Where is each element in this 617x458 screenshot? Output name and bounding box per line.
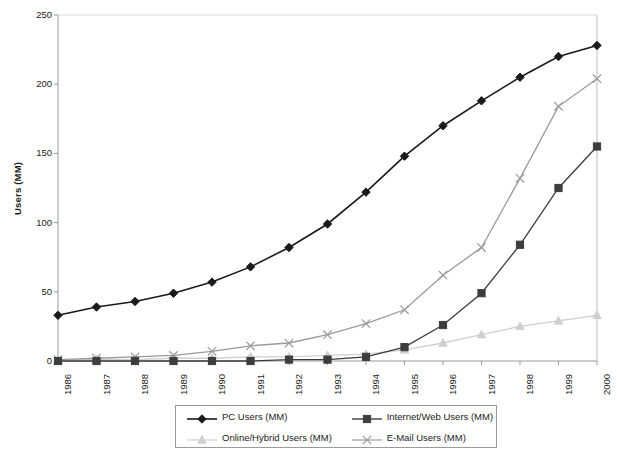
legend-label: Internet/Web Users (MM) <box>387 411 493 422</box>
diamond-marker-icon <box>186 411 218 423</box>
x-axis-tick-label: 1995 <box>409 374 420 395</box>
square-marker-icon <box>351 411 383 423</box>
x-axis-tick-label: 1996 <box>447 374 458 395</box>
y-axis-tick-label: 50 <box>16 286 52 297</box>
legend-item-email-users[interactable]: E-Mail Users (MM) <box>347 427 496 448</box>
legend-item-internet-web-users[interactable]: Internet/Web Users (MM) <box>347 406 496 427</box>
legend-item-online-hybrid-users[interactable]: Online/Hybrid Users (MM) <box>176 427 347 448</box>
y-axis-title: Users (MM) <box>12 162 23 215</box>
y-axis-tick-label: 200 <box>16 78 52 89</box>
legend-label: E-Mail Users (MM) <box>387 432 466 443</box>
legend-row: PC Users (MM) Internet/Web Users (MM) <box>176 406 496 427</box>
triangle-marker-icon <box>186 432 218 444</box>
x-axis-tick-label: 2000 <box>601 374 612 395</box>
x-axis-tick-label: 1988 <box>139 374 150 395</box>
x-axis-tick-label: 1990 <box>216 374 227 395</box>
legend-label: PC Users (MM) <box>222 411 287 422</box>
x-axis-tick-label: 1999 <box>563 374 574 395</box>
legend-label: Online/Hybrid Users (MM) <box>222 432 332 443</box>
x-axis-tick-label: 1993 <box>332 374 343 395</box>
x-axis-tick-label: 1994 <box>370 374 381 395</box>
legend-row: Online/Hybrid Users (MM) E-Mail Users (M… <box>176 427 496 448</box>
y-axis-tick-label: 0 <box>16 355 52 366</box>
line-chart: Users (MM) 250200150100500 1986198719881… <box>0 0 617 458</box>
x-axis-tick-label: 1992 <box>293 374 304 395</box>
legend-item-pc-users[interactable]: PC Users (MM) <box>176 406 347 427</box>
cross-marker-icon <box>351 432 383 444</box>
chart-legend: PC Users (MM) Internet/Web Users (MM) On… <box>175 405 497 448</box>
x-axis-tick-label: 1997 <box>486 374 497 395</box>
y-axis-tick-label: 100 <box>16 217 52 228</box>
x-axis-tick-label: 1998 <box>524 374 535 395</box>
y-axis-tick-label: 150 <box>16 147 52 158</box>
x-axis-tick-label: 1989 <box>178 374 189 395</box>
x-axis-tick-label: 1986 <box>62 374 73 395</box>
x-axis-tick-label: 1987 <box>101 374 112 395</box>
y-axis-tick-label: 250 <box>16 9 52 20</box>
x-axis-tick-label: 1991 <box>255 374 266 395</box>
